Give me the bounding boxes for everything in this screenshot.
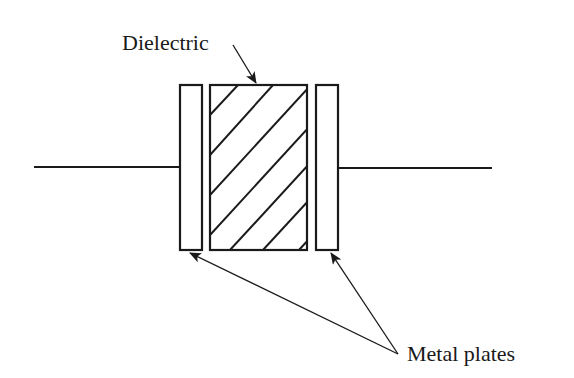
metal-plates-label: Metal plates — [407, 341, 515, 366]
left-metal-plate — [180, 85, 202, 250]
dielectric-label: Dielectric — [122, 30, 209, 55]
left-plate-arrow — [190, 253, 398, 354]
right-plate-arrow — [331, 253, 398, 354]
capacitor-diagram: Dielectric Metal plates — [0, 0, 574, 378]
dielectric-block — [210, 85, 310, 250]
dielectric-arrow — [233, 45, 256, 83]
right-metal-plate — [316, 85, 338, 250]
